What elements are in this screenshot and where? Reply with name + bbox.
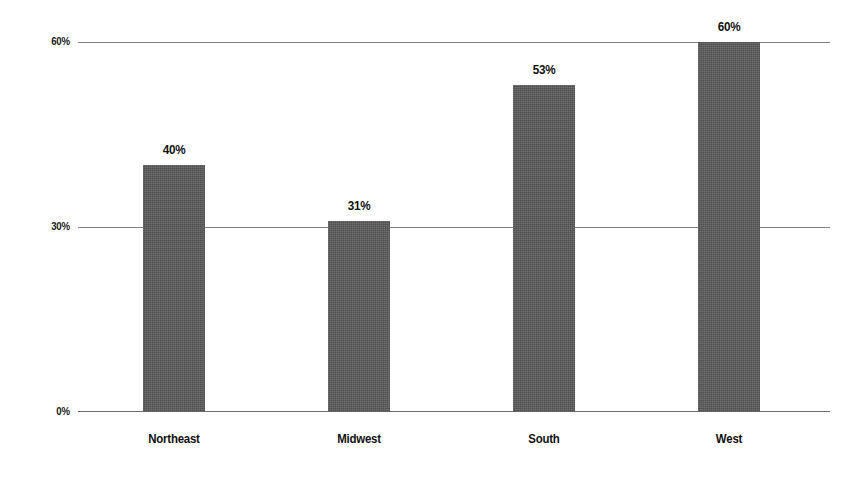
bar-group-northeast[interactable]: 40% — [143, 42, 205, 412]
x-category-label-south: South — [500, 432, 588, 445]
bar-group-midwest[interactable]: 31% — [328, 42, 390, 412]
bar-value-midwest: 31% — [315, 199, 403, 212]
bar-northeast[interactable] — [143, 165, 205, 412]
plot-area: 40% 31% 53% 60% — [78, 42, 830, 412]
bar-south[interactable] — [513, 85, 575, 412]
x-category-label-northeast: Northeast — [130, 432, 218, 445]
bar-chart: 60% 30% 0% 40% 31% 53% 60% Northeas — [0, 0, 868, 486]
x-category-label-midwest: Midwest — [315, 432, 403, 445]
bar-value-west: 60% — [685, 20, 773, 33]
bar-group-south[interactable]: 53% — [513, 42, 575, 412]
x-category-label-west: West — [685, 432, 773, 445]
bar-group-west[interactable]: 60% — [698, 42, 760, 412]
bar-value-south: 53% — [500, 63, 588, 76]
y-axis: 60% 30% 0% — [0, 42, 70, 412]
y-tick-label-60: 60% — [15, 36, 70, 47]
bar-west[interactable] — [698, 42, 760, 412]
y-tick-label-0: 0% — [15, 406, 70, 417]
x-axis: Northeast Midwest South West — [78, 432, 830, 462]
bar-midwest[interactable] — [328, 221, 390, 412]
bar-value-northeast: 40% — [130, 143, 218, 156]
y-tick-label-30: 30% — [15, 221, 70, 232]
